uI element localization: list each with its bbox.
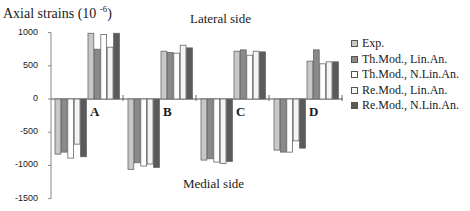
legend-item: Re.Mod., Lin.An. [351, 83, 459, 99]
group-label-b: B [163, 104, 172, 120]
bar-medial [68, 99, 74, 158]
bar-lateral [333, 62, 339, 99]
bar-medial [55, 99, 61, 154]
bar-lateral [253, 51, 259, 99]
bar-medial [147, 99, 153, 164]
bar-lateral [94, 49, 100, 99]
bar-lateral [174, 53, 180, 99]
legend-item: Th.Mod., N.Lin.An. [351, 67, 459, 83]
bar-medial [154, 99, 160, 167]
bar-lateral [240, 50, 246, 99]
legend-swatch-icon [351, 87, 358, 94]
bar-lateral [187, 48, 193, 99]
bar-medial [134, 99, 140, 163]
bar-lateral [101, 35, 107, 99]
bar-lateral [88, 33, 94, 99]
legend: Exp.Th.Mod., Lin.An.Th.Mod., N.Lin.An.Re… [351, 36, 459, 114]
legend-label: Re.Mod., Lin.An. [362, 83, 447, 98]
group-label-c: C [236, 104, 245, 120]
bar-medial [81, 99, 87, 157]
bar-lateral [260, 52, 266, 99]
legend-label: Re.Mod., N.Lin.An. [362, 98, 459, 113]
bar-lateral [234, 51, 240, 99]
bar-medial [293, 99, 299, 141]
bar-lateral [313, 50, 319, 99]
bar-lateral [161, 51, 167, 99]
bar-medial [280, 99, 286, 152]
group-label-a: A [90, 104, 99, 120]
bar-medial [207, 99, 213, 159]
bar-medial [201, 99, 207, 160]
legend-swatch-icon [351, 71, 358, 78]
bar-lateral [320, 64, 326, 99]
bar-lateral [247, 55, 253, 99]
legend-swatch-icon [351, 102, 358, 109]
legend-label: Exp. [362, 36, 384, 51]
legend-item: Th.Mod., Lin.An. [351, 52, 459, 68]
bar-medial [74, 99, 80, 144]
bar-medial [141, 99, 147, 166]
bar-lateral [307, 61, 313, 99]
legend-swatch-icon [351, 56, 358, 63]
bar-lateral [326, 62, 332, 99]
bar-medial [227, 99, 233, 161]
bar-lateral [180, 45, 186, 99]
legend-item: Exp. [351, 36, 459, 52]
bar-lateral [114, 33, 120, 99]
group-label-d: D [309, 104, 318, 120]
bar-lateral [107, 47, 113, 99]
legend-item: Re.Mod., N.Lin.An. [351, 98, 459, 114]
legend-label: Th.Mod., N.Lin.An. [362, 67, 459, 82]
bar-medial [128, 99, 134, 169]
bar-medial [300, 99, 306, 148]
bar-medial [287, 99, 293, 152]
bar-medial [214, 99, 220, 162]
bar-lateral [167, 53, 173, 99]
bar-medial [220, 99, 226, 163]
bar-medial [61, 99, 67, 152]
bar-medial [274, 99, 280, 150]
legend-swatch-icon [351, 40, 358, 47]
legend-label: Th.Mod., Lin.An. [362, 52, 447, 67]
